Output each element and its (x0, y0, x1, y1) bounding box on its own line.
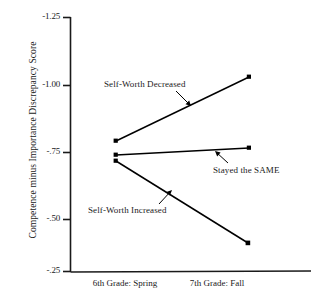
annotation-label-self-worth-increased: Self-Worth Increased (88, 205, 167, 215)
data-point-marker (247, 146, 251, 150)
x-tick-label-7th-grade-fall: 7th Grade: Fall (172, 278, 262, 288)
annotation-label-stayed-the-same: Stayed the SAME (213, 165, 280, 175)
series-line-stayed-the-same (116, 148, 249, 155)
x-axis-line (71, 271, 312, 272)
y-tick-label: -1.25 (20, 11, 60, 21)
data-point-marker (247, 75, 251, 79)
y-tick-label: -1.00 (20, 79, 60, 89)
y-tick-label: -.50 (20, 213, 60, 223)
data-point-marker (114, 153, 118, 157)
annotation-arrow-decreased (176, 91, 191, 106)
x-tick-label-6th-grade-spring: 6th Grade: Spring (76, 278, 174, 288)
data-point-marker (114, 159, 118, 163)
y-axis-title: Competence minus Importance Discrepancy … (28, 15, 38, 265)
data-point-marker (114, 139, 118, 143)
y-tick-label: -.75 (20, 146, 60, 156)
annotation-label-self-worth-decreased: Self-Worth Decreased (104, 79, 186, 89)
annotation-arrow-same (215, 151, 228, 163)
y-tick-label: -.25 (20, 265, 60, 275)
data-point-marker (246, 241, 251, 246)
chart-figure: Competence minus Importance Discrepancy … (0, 0, 313, 297)
